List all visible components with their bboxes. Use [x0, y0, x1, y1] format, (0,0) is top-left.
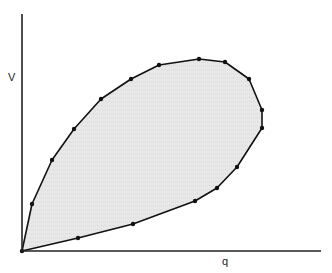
vertex-dot: [50, 158, 54, 162]
vertex-dot: [157, 63, 161, 67]
vertex-dot: [72, 127, 76, 131]
shaded-region: [22, 59, 262, 251]
vertex-dot: [215, 186, 219, 190]
vertex-dot: [247, 77, 251, 81]
vertex-dot: [193, 199, 197, 203]
vertex-dot: [260, 108, 264, 112]
y-axis-label: V: [8, 71, 16, 83]
vertex-dot: [99, 97, 103, 101]
pv-diagram: V q: [0, 0, 332, 273]
vertex-dot: [235, 165, 239, 169]
x-axis-label: q: [222, 255, 228, 267]
vertex-dot: [76, 236, 80, 240]
vertex-dot: [131, 222, 135, 226]
vertex-dot: [30, 202, 34, 206]
vertex-dot: [260, 126, 264, 130]
vertex-dot: [223, 60, 227, 64]
vertex-dot: [129, 77, 133, 81]
vertex-dot: [197, 57, 201, 61]
